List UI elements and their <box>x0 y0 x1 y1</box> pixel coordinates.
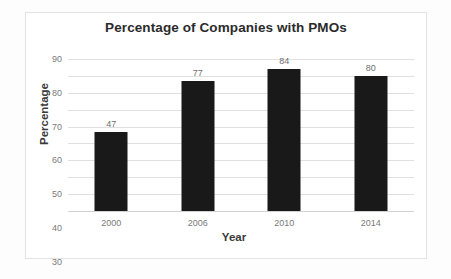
gridline: 0 <box>68 211 414 212</box>
bar[interactable] <box>95 132 128 211</box>
y-axis-title: Percentage <box>38 64 50 164</box>
chart-title: Percentage of Companies with PMOs <box>25 20 427 35</box>
bar-group: 802014 <box>328 59 415 211</box>
bar-group: 842010 <box>241 59 328 211</box>
bar-group: 472000 <box>68 59 155 211</box>
y-axis-tick-label: 30 <box>52 257 62 267</box>
y-axis-tick-label: 60 <box>52 155 62 165</box>
bar[interactable] <box>268 69 301 211</box>
plot-area: 9080706050403020100472000772006842010802… <box>68 59 414 211</box>
bar-value-label: 77 <box>193 68 203 78</box>
bar-group: 772006 <box>155 59 242 211</box>
bar[interactable] <box>354 76 387 211</box>
bar-value-label: 84 <box>279 56 289 66</box>
y-axis-tick-label: 80 <box>52 88 62 98</box>
y-axis-tick-label: 70 <box>52 122 62 132</box>
y-axis-tick-label: 90 <box>52 54 62 64</box>
x-axis-title: Year <box>64 231 404 243</box>
x-axis-tick-label: 2010 <box>274 218 294 228</box>
chart-figure: Percentage of Companies with PMOs Percen… <box>0 0 451 279</box>
bar-value-label: 47 <box>106 119 116 129</box>
x-axis-tick-label: 2014 <box>361 218 381 228</box>
bar[interactable] <box>181 81 214 211</box>
bar-value-label: 80 <box>366 63 376 73</box>
x-axis-tick-label: 2000 <box>101 218 121 228</box>
y-axis-tick-label: 50 <box>52 189 62 199</box>
x-axis-tick-label: 2006 <box>188 218 208 228</box>
y-axis-tick-label: 40 <box>52 223 62 233</box>
